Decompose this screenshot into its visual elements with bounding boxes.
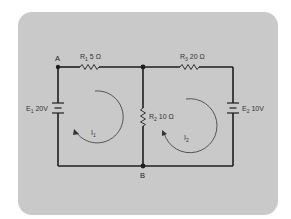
loop-i2-arrow-icon xyxy=(164,99,217,153)
battery-e1-icon xyxy=(52,103,64,113)
r1-label: R15 Ω xyxy=(80,53,101,62)
node-b-dot xyxy=(141,164,146,169)
e1-label: E120V xyxy=(26,105,48,114)
resistor-r1-icon xyxy=(80,65,99,70)
loop-i1-arrow-icon xyxy=(76,91,123,143)
i1-label: I1 xyxy=(91,129,96,138)
node-a-label: A xyxy=(55,54,60,63)
node-b-label: B xyxy=(140,171,145,180)
r3-label: R320 Ω xyxy=(180,53,205,62)
resistor-r3-icon xyxy=(180,65,199,70)
loop-i1-arrowhead-icon xyxy=(73,129,79,135)
wires xyxy=(58,67,233,166)
node-a-dot xyxy=(56,65,60,69)
circuit-diagram: A B R15 Ω R320 Ω R210 Ω E120V E210V I1 I… xyxy=(0,0,291,219)
battery-e2-icon xyxy=(227,103,239,113)
i2-label: I2 xyxy=(184,134,189,143)
node-top-junction-dot xyxy=(141,65,146,70)
e2-label: E210V xyxy=(242,105,264,114)
r2-label: R210 Ω xyxy=(149,113,174,122)
resistor-r2-icon xyxy=(141,108,146,126)
